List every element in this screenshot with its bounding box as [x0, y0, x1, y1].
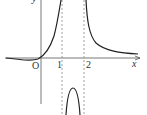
- curve-middle-branch: [66, 88, 80, 115]
- origin-label: O: [32, 61, 39, 71]
- tick-label-2: 2: [86, 60, 91, 70]
- x-axis-label: x: [132, 59, 136, 69]
- function-graph: [0, 0, 147, 115]
- curve-right-branch: [86, 0, 138, 54]
- curve-left-branch: [6, 0, 61, 60]
- y-axis-label: y: [32, 0, 36, 4]
- tick-label-1: 1: [57, 60, 62, 70]
